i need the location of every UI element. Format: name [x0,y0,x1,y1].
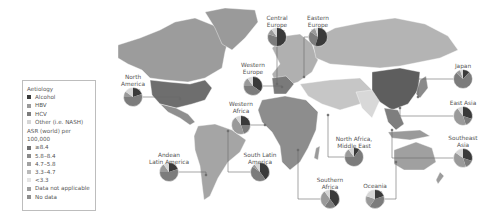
pie-southeast-asia [454,149,473,168]
legend-item-other: Other (i.e. NASH) [27,118,92,126]
pie-north-america [124,88,143,107]
region-label: WesternAfrica [229,101,253,115]
region-label-line: Europe [241,69,265,76]
swatch-hcv [27,112,31,116]
region-label: East Asia [450,100,477,107]
region-label-line: Africa [229,108,253,115]
aetiology-heading: Aetiology [27,85,92,93]
region-label-line: Asia [448,142,477,149]
region-label-line: South Latin [243,152,276,159]
region-label-line: America [243,159,276,166]
australia [394,142,436,170]
legend: Aetiology Alcohol HBV HCV Other (i.e. NA… [22,80,96,211]
region-label: CentralEurope [266,15,287,29]
canada [118,18,230,82]
region-label-line: East Asia [450,100,477,107]
region-label-line: Japan [455,63,471,70]
legend-item-asr: <3.3 [27,176,92,184]
legend-item-asr: 5.8–8.4 [27,152,92,160]
pie-central-europe [268,28,287,47]
legend-label: No data [35,193,57,201]
region-label-line: Middle East [336,143,372,150]
region-label-line: Eastern [307,15,329,22]
pie-oceania [365,190,384,209]
swatch-hbv [27,104,31,108]
south-america [194,124,246,200]
region-label-line: North Africa, [336,136,372,143]
region-label: North Africa,Middle East [336,136,372,150]
anchor-dot [399,107,401,109]
region-label-line: Europe [266,22,287,29]
legend-item-no-data: No data [27,193,92,201]
swatch-asr-4 [27,170,31,174]
region-label: WesternEurope [241,62,265,76]
legend-item-alcohol: Alcohol [27,93,92,101]
region-label-line: Oceania [363,183,387,190]
pie-japan [454,70,473,89]
legend-item-hcv: HCV [27,110,92,118]
legend-item-asr: 4.7–5.8 [27,160,92,168]
legend-item-hbv: HBV [27,101,92,109]
swatch-asr-3 [27,162,31,166]
region-label-line: Andean [149,152,189,159]
region-label-line: Southeast [448,135,477,142]
swatch-not-applicable [27,187,31,191]
region-label: AndeanLatin America [149,152,189,166]
swatch-asr-1 [27,146,31,150]
anchor-dot [391,129,393,131]
anchor-dot [276,83,278,85]
anchor-dot [327,114,329,116]
anchor-dot [205,174,207,176]
region-label: NorthAmerica [121,74,145,88]
anchor-dot [179,98,181,100]
swatch-alcohol [27,95,31,99]
legend-label: 3.3–4.7 [35,168,56,176]
anchor-dot [227,130,229,132]
region-label: EasternEurope [307,15,329,29]
region-label-line: Southern [317,177,343,184]
swatch-asr-2 [27,154,31,158]
region-label-line: Western [241,62,265,69]
region-label: Japan [455,63,471,70]
legend-label: ≥8.4 [35,143,49,151]
region-label: SouthernAfrica [317,177,343,191]
anchor-dot [281,86,283,88]
pie-east-asia [454,107,473,126]
legend-item-asr: 3.3–4.7 [27,168,92,176]
legend-label: Other (i.e. NASH) [35,118,83,126]
region-label-line: Latin America [149,159,189,166]
swatch-other [27,120,31,124]
legend-item-not-applicable: Data not applicable [27,184,92,192]
legend-label: HBV [35,101,47,109]
region-label: South LatinAmerica [243,152,276,166]
anchor-dot [395,161,397,163]
legend-label: Alcohol [35,93,55,101]
region-label-line: Central [266,15,287,22]
legend-label: Data not applicable [35,184,90,192]
legend-item-asr: ≥8.4 [27,143,92,151]
asr-heading: ASR (world) per 100,000 [27,127,92,143]
legend-label: 5.8–8.4 [35,152,56,160]
region-label-line: North [121,74,145,81]
china [372,68,420,110]
legend-label: <3.3 [35,176,49,184]
swatch-asr-5 [27,178,31,182]
region-label-line: Europe [307,22,329,29]
pie-western-africa [232,116,251,135]
pie-western-europe [244,77,263,96]
region-label-line: America [121,81,145,88]
region-label: Oceania [363,183,387,190]
pie-north-africa-middle-east [345,147,364,166]
swatch-no-data [27,195,31,199]
usa [150,80,212,108]
anchor-dot [417,96,419,98]
new-zealand [436,172,444,184]
anchor-dot [264,124,266,126]
pie-southern-africa [321,190,340,209]
madagascar [314,146,320,160]
russia [312,18,458,68]
indonesia [388,130,430,140]
region-label-line: Africa [317,184,343,191]
legend-label: HCV [35,110,47,118]
region-label-line: Western [229,101,253,108]
